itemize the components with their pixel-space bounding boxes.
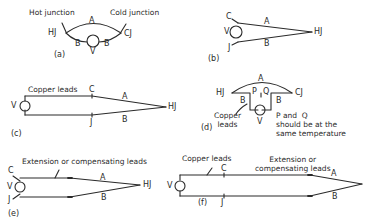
cj-label: CJ <box>124 30 132 38</box>
hj-label: HJ <box>143 181 151 189</box>
wire-a-label: A <box>331 170 336 178</box>
voltmeter-label: V <box>257 118 262 126</box>
voltmeter-icon <box>175 181 185 191</box>
voltmeter-label: V <box>224 28 229 36</box>
copper-leads-label: Copper leads <box>28 86 77 94</box>
voltmeter-icon <box>230 26 242 38</box>
wire-a-label: A <box>89 17 94 25</box>
voltmeter-icon <box>15 182 25 192</box>
q-label: Q <box>263 88 269 96</box>
copper-leads-label: Copper leads <box>182 155 231 163</box>
cj-label: CJ <box>295 89 303 97</box>
p-label: P <box>252 88 257 96</box>
wire-b-label: B <box>332 193 338 201</box>
thermocouple-circuits-figure: Hot junction Cold junction A HJ CJ B B V… <box>0 0 372 224</box>
wire-a-label: A <box>122 93 127 101</box>
c-label: C <box>226 13 232 21</box>
wire-b-label: B <box>122 116 128 124</box>
voltmeter-label: V <box>7 183 12 191</box>
wire-a-label: A <box>258 75 263 83</box>
temperature-note: P and Q should be at the same temperatur… <box>276 111 346 138</box>
cold-junction-label: Cold junction <box>110 9 159 17</box>
c-label: C <box>221 165 227 173</box>
voltmeter-icon <box>87 35 99 47</box>
c-label: C <box>89 86 95 94</box>
wire-a-label: A <box>100 174 105 182</box>
copper-leads-label: Copper leads <box>214 111 241 129</box>
voltmeter-label: V <box>11 102 16 110</box>
wire-a-label: A <box>264 18 269 26</box>
wire-b-right-label: B <box>104 40 110 48</box>
j-label: J <box>228 44 230 52</box>
wire-b-left-label: B <box>75 40 81 48</box>
panel-c-wires <box>20 94 166 117</box>
panel-b-caption: (b) <box>208 55 219 63</box>
panel-e-wires <box>13 170 140 199</box>
panel-a-wires <box>62 23 126 47</box>
wire-b-right-label: B <box>276 97 282 105</box>
hj-label: HJ <box>168 103 176 111</box>
voltmeter-label: V <box>167 182 172 190</box>
j-label: J <box>8 196 10 204</box>
panel-e-caption: (e) <box>8 210 19 218</box>
j-label: J <box>90 119 92 127</box>
hj-label: HJ <box>48 29 56 37</box>
extension-leads-label: Extension or compensating leads <box>22 158 147 166</box>
wire-b-label: B <box>264 40 270 48</box>
wire-b-left-label: B <box>240 97 246 105</box>
voltmeter-label: V <box>90 48 95 56</box>
panel-f-caption: (f) <box>198 199 207 207</box>
panel-b-wires <box>230 19 312 45</box>
panel-a-caption: (a) <box>54 51 65 59</box>
hj-label: HJ <box>216 89 224 97</box>
extension-leads-label: Extension or compensating leads <box>255 155 331 173</box>
wire-b-label: B <box>101 194 107 202</box>
hot-junction-label: Hot junction <box>29 9 75 17</box>
hj-label: HJ <box>314 28 322 36</box>
panel-c-caption: (c) <box>11 130 22 138</box>
panel-d-caption: (d) <box>201 124 212 132</box>
j-label: J <box>221 199 223 207</box>
c-label: C <box>8 167 14 175</box>
